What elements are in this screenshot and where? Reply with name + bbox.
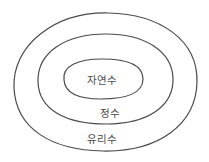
label-natural-numbers: 자연수 bbox=[87, 72, 118, 87]
label-rational-numbers: 유리수 bbox=[87, 131, 118, 146]
label-integers: 정수 bbox=[100, 105, 121, 120]
